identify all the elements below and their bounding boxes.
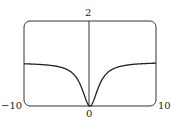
x-max-label: 10	[158, 101, 171, 111]
y-max-label: 2	[85, 8, 91, 18]
x-min-label: −10	[1, 101, 22, 111]
plot-area	[0, 0, 171, 123]
origin-label: 0	[86, 109, 92, 119]
function-curve	[24, 63, 156, 106]
